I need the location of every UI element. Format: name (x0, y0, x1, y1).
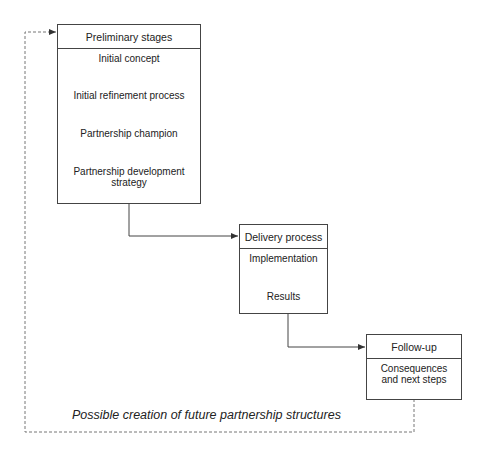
arrow-preliminary-to-delivery (129, 203, 238, 236)
delivery-process-box: Delivery process Implementation Results (239, 224, 328, 314)
step-partnership-champion: Partnership champion (58, 128, 200, 140)
step-strategy: strategy (58, 177, 200, 189)
follow-up-title: Follow-up (367, 335, 461, 359)
delivery-process-title: Delivery process (240, 225, 327, 249)
step-implementation: Implementation (240, 253, 327, 265)
preliminary-stages-title: Preliminary stages (58, 25, 200, 49)
step-initial-refinement: Initial refinement process (58, 90, 200, 102)
step-initial-concept: Initial concept (58, 53, 200, 65)
step-next-steps: and next steps (367, 374, 461, 386)
follow-up-box: Follow-up Consequences and next steps (366, 334, 462, 400)
feedback-caption: Possible creation of future partnership … (72, 408, 341, 422)
preliminary-stages-box: Preliminary stages Initial concept Initi… (57, 24, 201, 204)
arrow-delivery-to-followup (288, 313, 365, 347)
step-results: Results (240, 291, 327, 303)
